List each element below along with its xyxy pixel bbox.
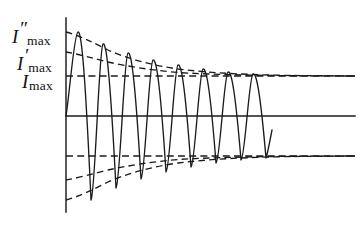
label-imax-prime: I′max bbox=[17, 46, 52, 74]
label-imax-symbol: I bbox=[22, 71, 29, 92]
label-imax-double-prime-prime: ″ bbox=[19, 18, 27, 39]
imax-double-prime-envelope-upper bbox=[66, 32, 355, 76]
label-imax: Imax bbox=[22, 72, 53, 92]
label-imax-double-prime-symbol: I bbox=[12, 26, 19, 47]
figure-container: I″max I′max Imax bbox=[0, 0, 363, 229]
damped-current-waveform-chart bbox=[0, 0, 363, 229]
imax-double-prime-envelope-lower bbox=[66, 156, 355, 200]
label-imax-subscript: max bbox=[29, 78, 53, 93]
label-imax-double-prime: I″max bbox=[12, 19, 51, 47]
